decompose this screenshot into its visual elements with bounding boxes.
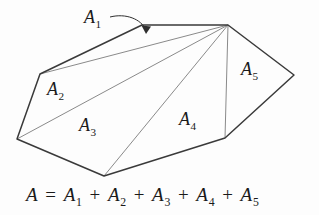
equation-plus-1: + xyxy=(82,184,108,205)
equation-plus-3: + xyxy=(171,184,197,205)
equation-term-2-base: A xyxy=(108,184,120,205)
area-label-a3: A3 xyxy=(79,116,96,138)
diagonal-apex-to-upper-left xyxy=(40,25,228,74)
area-label-a2-subscript: 2 xyxy=(58,90,64,102)
equation-term-3-subscript: 3 xyxy=(164,196,171,209)
area-label-a2-base: A xyxy=(47,79,58,99)
polygon-diagram xyxy=(0,0,319,215)
a1-leader-curve xyxy=(110,16,146,30)
area-label-a1-base: A xyxy=(84,7,95,27)
equation-lhs: A xyxy=(26,184,38,205)
area-label-a5-subscript: 5 xyxy=(252,70,258,82)
equation-plus-4: + xyxy=(215,184,241,205)
equation-term-1-base: A xyxy=(64,184,76,205)
diagonal-apex-to-bottom-right xyxy=(225,25,228,138)
equation-term-5-subscript: 5 xyxy=(252,196,259,209)
area-label-a4-base: A xyxy=(179,109,190,129)
diagonal-apex-to-bottom xyxy=(104,25,228,176)
a1-arrowhead xyxy=(142,26,152,35)
area-label-a4-subscript: 4 xyxy=(190,120,196,132)
area-sum-equation: A = A1 + A2 + A3 + A4 + A5 xyxy=(26,185,259,209)
equation-plus-2: + xyxy=(126,184,152,205)
figure-container: A1 A2 A3 A4 A5 A = A1 + A2 + A3 + A4 + A… xyxy=(0,0,319,215)
equation-term-4-subscript: 4 xyxy=(208,196,215,209)
equation-term-4-base: A xyxy=(196,184,208,205)
equation-term-5-base: A xyxy=(241,184,253,205)
area-label-a5: A5 xyxy=(241,60,258,82)
equation-term-3-base: A xyxy=(152,184,164,205)
area-label-a1: A1 xyxy=(84,8,101,30)
area-label-a2: A2 xyxy=(47,80,64,102)
area-label-a5-base: A xyxy=(241,59,252,79)
area-label-a1-subscript: 1 xyxy=(95,18,101,30)
equation-equals-sign: = xyxy=(38,184,64,205)
area-label-a3-base: A xyxy=(79,115,90,135)
area-label-a3-subscript: 3 xyxy=(90,126,96,138)
area-label-a4: A4 xyxy=(179,110,196,132)
